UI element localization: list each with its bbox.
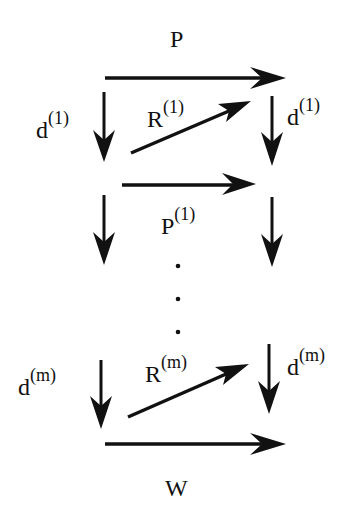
arrow-right-2 (261, 197, 283, 267)
label-right-d1: d(1) (287, 95, 320, 130)
commutative-diagram: P d(1) R(1) d(1) P(1) (0, 0, 363, 511)
arrow-p1 (122, 173, 256, 195)
arrow-left-2 (93, 195, 115, 265)
arrow-left-d1 (93, 92, 115, 162)
label-r1: R(1) (147, 97, 184, 132)
arrow-left-dm (90, 360, 112, 429)
label-left-dm: d(m) (18, 365, 56, 400)
label-p1: P(1) (161, 204, 195, 239)
label-right-dm: d(m) (287, 345, 325, 380)
label-left-d1: d(1) (36, 108, 69, 143)
arrow-right-dm (258, 344, 280, 414)
label-w: W (165, 475, 188, 501)
arrow-p (105, 67, 286, 89)
label-rm: R(m) (145, 352, 187, 387)
ellipsis-dots (176, 264, 181, 335)
arrow-w (105, 433, 286, 455)
label-p: P (170, 26, 183, 52)
arrow-right-d1 (261, 96, 283, 166)
